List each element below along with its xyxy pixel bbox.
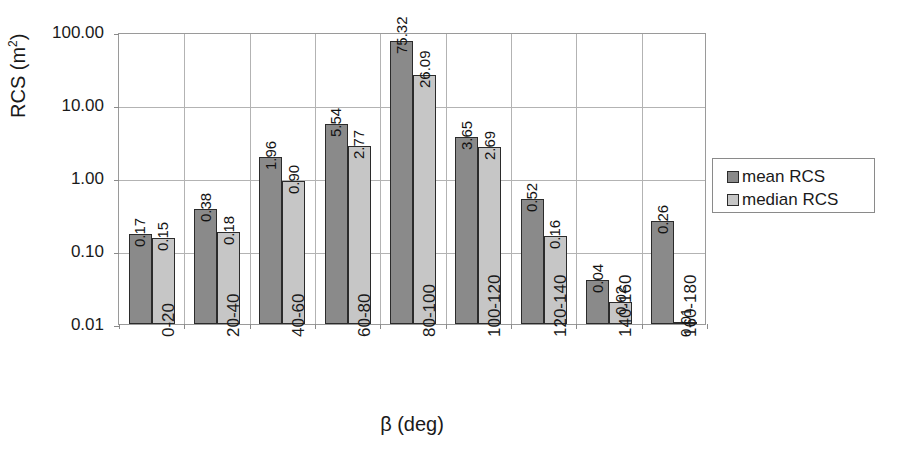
y-axis-tick <box>114 180 119 181</box>
bar-value-label: 75.32 <box>394 16 409 54</box>
y-axis-tick-label: 10.00 <box>61 96 104 116</box>
y-axis-tick <box>114 34 119 35</box>
legend-item[interactable]: median RCS <box>727 188 874 211</box>
x-gridline <box>642 34 643 324</box>
x-axis-tick <box>511 324 512 329</box>
bar-value-label: 3.65 <box>459 121 474 150</box>
y-axis-tick-label: 100.00 <box>52 23 104 43</box>
rcs-bar-chart: RCS (m2) 100.0010.001.000.100.01 0.170.3… <box>0 0 899 457</box>
x-axis-category-label: 80-100 <box>421 284 438 337</box>
y-axis-tick-label: 0.01 <box>71 315 104 335</box>
x-axis-tick <box>576 324 577 329</box>
x-axis-category-label: 160-180 <box>682 275 699 337</box>
x-gridline <box>446 34 447 324</box>
bar-value-label: 0.17 <box>132 218 147 247</box>
x-gridline <box>184 34 185 324</box>
y-axis-tick <box>114 253 119 254</box>
x-axis-tick <box>184 324 185 329</box>
y-axis-tick-label: 1.00 <box>71 169 104 189</box>
x-axis-tick <box>446 324 447 329</box>
bar-mean-rcs <box>521 199 544 324</box>
legend-item-label: median RCS <box>742 190 838 210</box>
legend-item-label: mean RCS <box>742 167 825 187</box>
legend-swatch-icon <box>727 194 739 206</box>
bar-mean-rcs <box>325 124 348 324</box>
bar-value-label: 0.38 <box>198 192 213 221</box>
x-gridline <box>511 34 512 324</box>
x-axis-category-label: 120-140 <box>552 275 569 337</box>
x-axis-tick <box>707 324 708 329</box>
bar-value-label: 5.54 <box>328 108 343 137</box>
bar-mean-rcs <box>455 137 478 324</box>
x-gridline <box>315 34 316 324</box>
y-axis-tick-labels: 100.0010.001.000.100.01 <box>0 0 112 457</box>
bar-value-label: 0.18 <box>221 216 236 245</box>
bar-value-label: 0.04 <box>590 264 605 293</box>
bar-value-label: 0.26 <box>655 205 670 234</box>
x-axis-category-label: 40-60 <box>290 294 307 337</box>
x-axis-tick <box>119 324 120 329</box>
x-axis-category-label: 60-80 <box>356 294 373 337</box>
legend-item[interactable]: mean RCS <box>727 165 874 188</box>
x-axis-category-label: 100-120 <box>486 275 503 337</box>
x-gridline <box>380 34 381 324</box>
bar-mean-rcs <box>129 234 152 324</box>
bar-mean-rcs <box>259 157 282 324</box>
x-axis-tick <box>315 324 316 329</box>
y-axis-tick <box>114 107 119 108</box>
bar-value-label: 26.09 <box>417 50 432 88</box>
bar-mean-rcs <box>651 221 674 324</box>
bar-value-label: 0.90 <box>286 165 301 194</box>
bar-value-label: 2.77 <box>351 129 366 158</box>
bar-mean-rcs <box>194 209 217 324</box>
y-axis-tick-label: 0.10 <box>71 242 104 262</box>
bar-value-label: 0.16 <box>547 220 562 249</box>
bar-mean-rcs <box>390 41 413 324</box>
x-gridline <box>250 34 251 324</box>
bar-value-label: 1.96 <box>263 140 278 169</box>
x-axis-tick <box>642 324 643 329</box>
x-axis-category-label: 20-40 <box>225 294 242 337</box>
bar-value-label: 2.69 <box>482 130 497 159</box>
chart-legend: mean RCSmedian RCS <box>712 158 875 213</box>
legend-swatch-icon <box>727 171 739 183</box>
x-axis-category-label: 0-20 <box>160 303 177 337</box>
bar-value-label: 0.52 <box>524 183 539 212</box>
x-axis-category-label: 140-160 <box>617 275 634 337</box>
x-axis-tick <box>380 324 381 329</box>
x-axis-tick <box>250 324 251 329</box>
x-gridline <box>576 34 577 324</box>
bar-value-label: 0.15 <box>155 222 170 251</box>
x-axis-title: β (deg) <box>118 413 706 436</box>
